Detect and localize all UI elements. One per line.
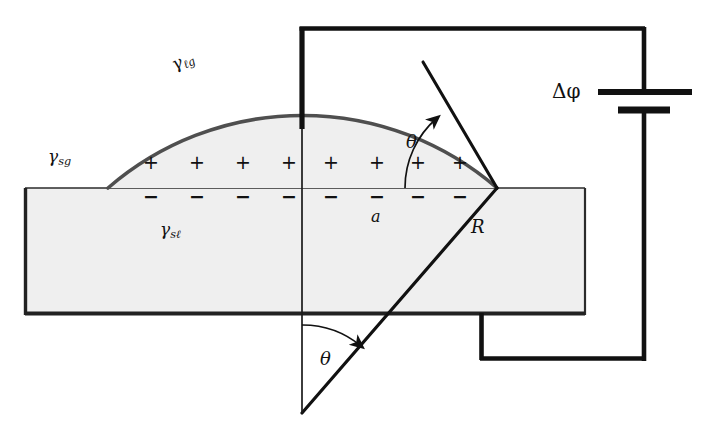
positive-charge-5: + (369, 153, 383, 172)
label-gamma-sl-sub: sℓ (170, 228, 180, 241)
label-theta-upper: θ (406, 131, 417, 152)
label-theta-lower: θ (320, 348, 331, 369)
label-gamma-sg-sub: sg (58, 155, 71, 168)
substrate-fill (25, 188, 585, 315)
label-gamma-sl: γsℓ (160, 219, 181, 241)
label-gamma-sg: γsg (48, 146, 71, 168)
theta-lower-arc (302, 325, 361, 346)
label-R: R (471, 216, 485, 237)
negative-charge-6: − (410, 187, 424, 206)
label-gamma-sl-text: γ (160, 219, 170, 239)
positive-charge-4: + (323, 153, 337, 172)
diagram-canvas: γℓg γsg γsℓ a R θ θ Δφ ++++++++−−−−−−−− (0, 0, 710, 433)
electrowetting-diagram-svg (0, 0, 710, 433)
positive-charge-0: + (143, 153, 157, 172)
positive-charge-7: + (452, 153, 466, 172)
positive-charge-6: + (410, 153, 424, 172)
positive-charge-3: + (281, 153, 295, 172)
label-a: a (371, 207, 381, 226)
theta-lower-angle (302, 325, 361, 346)
negative-charge-1: − (189, 187, 203, 206)
negative-charge-3: − (281, 187, 295, 206)
negative-charge-4: − (323, 187, 337, 206)
label-gamma-sg-text: γ (48, 146, 58, 166)
label-delta-phi: Δφ (552, 79, 580, 103)
substrate-slab (25, 188, 585, 315)
battery-symbol (598, 92, 692, 110)
negative-charge-5: − (369, 187, 383, 206)
negative-charge-0: − (143, 187, 157, 206)
negative-charge-2: − (235, 187, 249, 206)
positive-charge-1: + (189, 153, 203, 172)
negative-charge-7: − (452, 187, 466, 206)
positive-charge-2: + (235, 153, 249, 172)
